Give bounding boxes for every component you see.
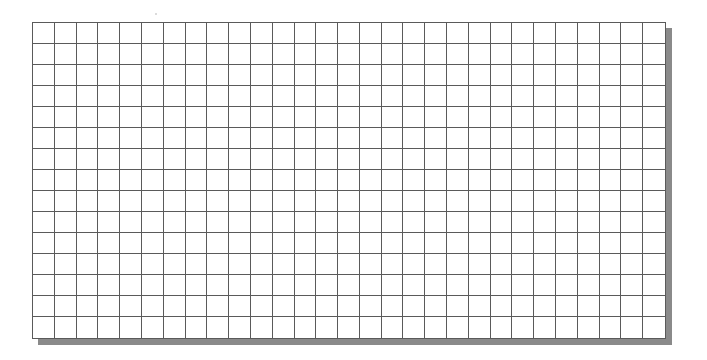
grid-cell bbox=[98, 254, 120, 275]
grid-cell bbox=[491, 65, 513, 86]
grid-cell bbox=[186, 23, 208, 44]
grid-cell bbox=[55, 296, 77, 317]
grid-cell bbox=[164, 149, 186, 170]
grid-cell bbox=[578, 107, 600, 128]
grid-cell bbox=[142, 275, 164, 296]
grid-cell bbox=[491, 107, 513, 128]
grid-cell bbox=[229, 233, 251, 254]
grid-cell bbox=[600, 86, 622, 107]
grid-cell bbox=[382, 128, 404, 149]
grid-cell bbox=[469, 65, 491, 86]
grid-cell bbox=[338, 128, 360, 149]
grid-cell bbox=[469, 44, 491, 65]
grid-cell bbox=[207, 254, 229, 275]
grid-cell bbox=[491, 149, 513, 170]
grid-cell bbox=[600, 65, 622, 86]
grid-cell bbox=[621, 317, 643, 338]
grid-cell bbox=[338, 212, 360, 233]
grid-cell bbox=[534, 23, 556, 44]
grid-cell bbox=[512, 233, 534, 254]
grid-cell bbox=[491, 254, 513, 275]
grid-cell bbox=[251, 149, 273, 170]
grid-cell bbox=[142, 191, 164, 212]
grid-cell bbox=[469, 23, 491, 44]
grid-cell bbox=[360, 23, 382, 44]
grid-cell bbox=[229, 317, 251, 338]
grid-cell bbox=[273, 149, 295, 170]
grid-cell bbox=[229, 149, 251, 170]
grid-cell bbox=[512, 170, 534, 191]
grid-cell bbox=[382, 149, 404, 170]
grid-cell bbox=[403, 212, 425, 233]
grid-cell bbox=[164, 107, 186, 128]
grid-cell bbox=[360, 44, 382, 65]
grid-cell bbox=[186, 254, 208, 275]
grid-cell bbox=[273, 317, 295, 338]
grid-cell bbox=[621, 128, 643, 149]
grid-cell bbox=[77, 128, 99, 149]
grid-cell bbox=[207, 170, 229, 191]
grid-cell bbox=[512, 275, 534, 296]
grid-cell bbox=[621, 44, 643, 65]
grid-cell bbox=[164, 233, 186, 254]
grid-cell bbox=[55, 317, 77, 338]
grid-cell bbox=[600, 317, 622, 338]
grid-cell bbox=[534, 44, 556, 65]
grid-cell bbox=[425, 86, 447, 107]
grid-cell bbox=[77, 149, 99, 170]
grid-cell bbox=[403, 275, 425, 296]
grid-cell bbox=[425, 107, 447, 128]
grid-cell bbox=[382, 296, 404, 317]
grid-cell bbox=[360, 107, 382, 128]
grid-cell bbox=[556, 86, 578, 107]
grid-cell bbox=[33, 317, 55, 338]
grid-cell bbox=[55, 65, 77, 86]
grid-cell bbox=[338, 317, 360, 338]
grid-cell bbox=[164, 191, 186, 212]
grid-cell bbox=[142, 254, 164, 275]
grid-cell bbox=[33, 128, 55, 149]
grid-cell bbox=[55, 275, 77, 296]
grid-cell bbox=[295, 23, 317, 44]
grid-cell bbox=[491, 44, 513, 65]
grid-cell bbox=[120, 23, 142, 44]
grid-cell bbox=[447, 86, 469, 107]
grid-cell bbox=[469, 107, 491, 128]
grid-cell bbox=[77, 170, 99, 191]
grid-cell bbox=[643, 191, 665, 212]
grid-cell bbox=[425, 170, 447, 191]
grid-cell bbox=[621, 191, 643, 212]
grid-cell bbox=[447, 107, 469, 128]
grid-cell bbox=[142, 317, 164, 338]
grid-cell bbox=[491, 86, 513, 107]
grid-cell bbox=[447, 44, 469, 65]
grid-cell bbox=[229, 44, 251, 65]
grid-cell bbox=[600, 170, 622, 191]
grid-cell bbox=[295, 212, 317, 233]
grid-cell bbox=[643, 254, 665, 275]
grid-cell bbox=[447, 212, 469, 233]
grid-cell bbox=[316, 317, 338, 338]
grid-cell bbox=[295, 254, 317, 275]
grid-cell bbox=[98, 65, 120, 86]
grid-cell bbox=[295, 296, 317, 317]
grid-cell bbox=[33, 23, 55, 44]
grid-cell bbox=[207, 128, 229, 149]
grid-cell bbox=[273, 128, 295, 149]
grid-cell bbox=[338, 296, 360, 317]
grid-cell bbox=[556, 149, 578, 170]
grid-cell bbox=[447, 65, 469, 86]
grid-cell bbox=[469, 317, 491, 338]
grid-cell bbox=[425, 191, 447, 212]
grid-cell bbox=[77, 23, 99, 44]
grid-cell bbox=[142, 296, 164, 317]
grid-cell bbox=[469, 128, 491, 149]
grid-cell bbox=[98, 296, 120, 317]
grid-cell bbox=[316, 128, 338, 149]
grid-cell bbox=[556, 170, 578, 191]
grid-cell bbox=[186, 86, 208, 107]
grid-cell bbox=[77, 44, 99, 65]
grid-cell bbox=[273, 254, 295, 275]
grid-cell bbox=[77, 275, 99, 296]
grid-cell bbox=[251, 191, 273, 212]
